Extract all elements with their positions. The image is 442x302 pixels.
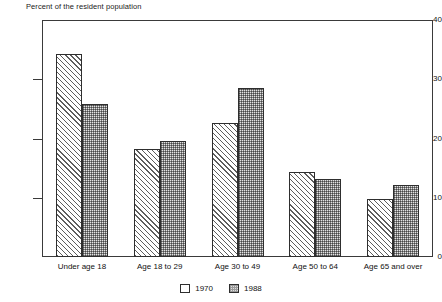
bar-1988-age-65-and-over	[393, 185, 419, 257]
x-axis-tick-label: Under age 18	[43, 262, 121, 271]
bar-1988-age-30-to-49	[238, 88, 264, 257]
bar-1970-age-18-to-29	[134, 149, 160, 257]
legend-label: 1988	[244, 285, 262, 293]
bar-group	[56, 21, 108, 257]
x-axis-tick-label: Age 65 and over	[354, 262, 432, 271]
bar-1988-age-50-to-64	[315, 179, 341, 257]
legend-item-1970[interactable]: 1970	[180, 284, 213, 293]
bar-group	[289, 21, 341, 257]
legend-swatch-icon	[229, 284, 239, 293]
bar-1970-age-65-and-over	[367, 199, 393, 257]
bar-1970-under-age-18	[56, 54, 82, 257]
bar-1970-age-50-to-64	[289, 172, 315, 257]
y-axis-tick-mark	[33, 79, 42, 80]
legend-item-1988[interactable]: 1988	[229, 284, 262, 293]
x-axis-tick-label: Age 30 to 49	[199, 262, 277, 271]
bar-group	[367, 21, 419, 257]
x-axis-tick-label: Age 50 to 64	[276, 262, 354, 271]
bar-1988-under-age-18	[82, 104, 108, 257]
y-axis-tick-mark	[33, 198, 42, 199]
bars-layer	[43, 21, 432, 257]
chart-legend: 19701988	[0, 284, 442, 293]
x-axis-tick-label: Age 18 to 29	[121, 262, 199, 271]
bar-chart: Percent of the resident population 01020…	[0, 0, 442, 302]
bar-group	[134, 21, 186, 257]
bar-group	[212, 21, 264, 257]
y-axis-title: Percent of the resident population	[26, 2, 142, 11]
bar-1988-age-18-to-29	[160, 141, 186, 257]
bar-1970-age-30-to-49	[212, 123, 238, 257]
y-axis-tick-mark	[33, 139, 42, 140]
legend-label: 1970	[195, 285, 213, 293]
legend-swatch-icon	[180, 284, 190, 293]
